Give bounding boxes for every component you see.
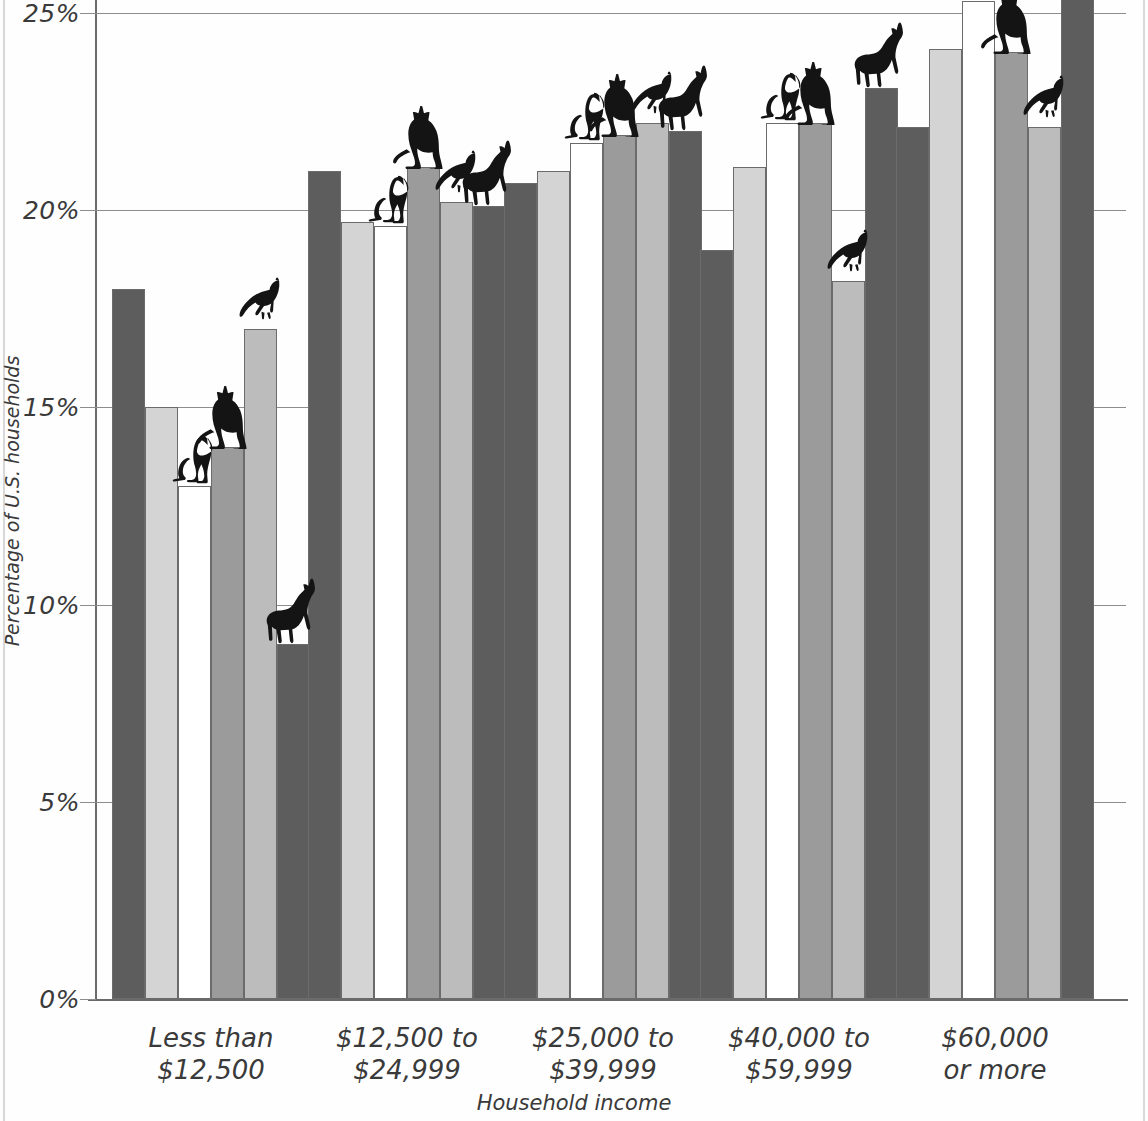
bar — [440, 202, 473, 999]
y-tick-mark — [80, 13, 96, 14]
y-tick-mark — [80, 407, 96, 408]
cat-icon — [785, 57, 847, 125]
x-category-label: $25,000 to$39,999 — [493, 1022, 713, 1086]
x-category-label: Less than$12,500 — [101, 1022, 321, 1086]
bar — [799, 123, 832, 999]
x-category-label-line1: $60,000 — [941, 1023, 1049, 1053]
y-tick-label: 0% — [6, 985, 80, 1014]
x-category-label-line1: Less than — [149, 1023, 274, 1053]
y-tick-mark — [80, 802, 96, 803]
bar — [407, 167, 440, 999]
horse-icon — [850, 18, 914, 90]
bar — [473, 206, 506, 999]
x-category-label-line2: or more — [885, 1054, 1105, 1086]
x-category-label: $12,500 to$24,999 — [297, 1022, 517, 1086]
bar — [244, 329, 277, 999]
x-category-label-line1: $40,000 to — [728, 1023, 870, 1053]
x-category-label: $40,000 to$59,999 — [689, 1022, 909, 1086]
bar — [669, 131, 702, 999]
x-category-label-line1: $25,000 to — [532, 1023, 674, 1053]
x-category-label: $60,000or more — [885, 1022, 1105, 1086]
y-tick-label: 20% — [6, 196, 80, 225]
bar — [766, 123, 799, 999]
page-border-right — [1143, 0, 1145, 1121]
bar — [865, 88, 898, 999]
bar — [211, 447, 244, 999]
y-tick-label: 5% — [6, 787, 80, 816]
y-tick-mark — [80, 605, 96, 606]
bar — [537, 171, 570, 999]
bar — [504, 183, 537, 999]
x-category-label-line2: $12,500 — [101, 1054, 321, 1086]
x-category-label-line1: $12,500 to — [336, 1023, 478, 1053]
bird-icon — [235, 275, 291, 331]
bar — [112, 289, 145, 999]
bar — [308, 171, 341, 999]
bird-icon — [627, 69, 683, 125]
x-category-label-line2: $24,999 — [297, 1054, 517, 1086]
x-category-label-line2: $39,999 — [493, 1054, 713, 1086]
y-tick-label: 25% — [6, 0, 80, 28]
cat-icon — [393, 101, 455, 169]
y-tick-mark — [80, 999, 96, 1000]
bar — [995, 52, 1028, 999]
bar — [1061, 0, 1094, 999]
bar — [374, 226, 407, 999]
x-axis-category-labels: Less than$12,500$12,500 to$24,999$25,000… — [96, 1008, 1126, 1088]
bar — [832, 281, 865, 999]
bar — [341, 222, 374, 999]
bar — [636, 123, 669, 999]
dog-icon — [754, 67, 812, 125]
x-category-label-line2: $59,999 — [689, 1054, 909, 1086]
bar — [1028, 127, 1061, 999]
bar — [145, 407, 178, 999]
bar — [733, 167, 766, 999]
bar — [962, 1, 995, 999]
bar — [178, 486, 211, 999]
bar — [700, 250, 733, 999]
bar — [929, 49, 962, 1000]
bars-layer — [96, 0, 1126, 1000]
y-axis-title: Percentage of U.S. households — [1, 271, 23, 731]
chart-page: 0%5%10%15%20%25% Percentage of U.S. hous… — [0, 0, 1148, 1121]
bar — [603, 135, 636, 999]
bar — [570, 143, 603, 999]
bar — [277, 644, 310, 999]
bar — [896, 127, 929, 999]
y-tick-mark — [80, 210, 96, 211]
x-axis-title: Household income — [0, 1091, 1148, 1115]
